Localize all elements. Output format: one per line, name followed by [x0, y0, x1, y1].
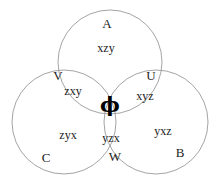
region-content-a-only: xzy [97, 42, 114, 54]
region-label-u: U [146, 69, 155, 82]
region-content-center-phi: ϕ [100, 94, 120, 115]
region-label-w: W [109, 150, 121, 163]
region-content-b-only: yxz [154, 125, 171, 137]
region-content-c-only: zyx [59, 129, 76, 141]
set-label-a: A [102, 17, 111, 30]
region-content-a-and-b: xyz [136, 90, 153, 102]
venn-diagram-figure: A C B V U W xzy zxy xyz ϕ zyx yzx yxz [0, 0, 221, 188]
set-label-b: B [176, 146, 185, 159]
region-content-a-and-c: zxy [64, 85, 81, 97]
region-content-b-and-c: yzx [102, 132, 119, 144]
set-label-c: C [42, 151, 51, 164]
region-label-v: V [53, 69, 62, 82]
